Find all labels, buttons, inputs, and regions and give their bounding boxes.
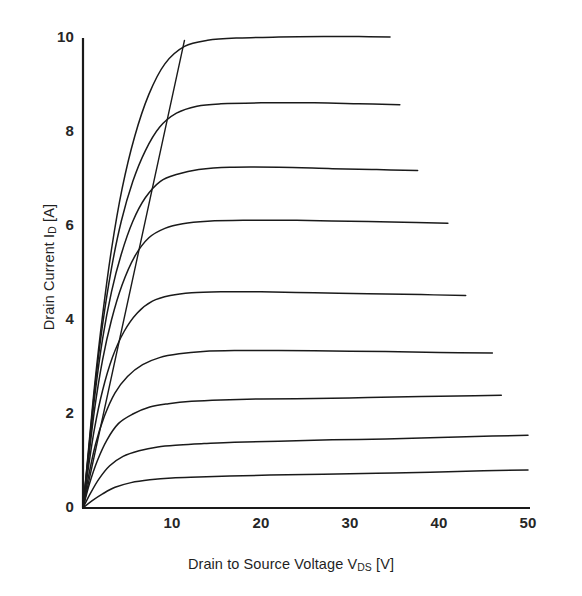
- y-axis-title-pre: Drain Current I: [41, 234, 57, 331]
- x-tick-label-10: 10: [152, 514, 192, 531]
- transistor-output-characteristics-figure: 10 8 6 4 2 0 10 20 30 40 50 Drain to Sou…: [0, 0, 582, 596]
- y-axis-title-post: [A]: [41, 204, 57, 226]
- x-tick-label-20: 20: [241, 514, 281, 531]
- characteristic-curves: [83, 37, 528, 508]
- curve-curve-1: [83, 37, 390, 508]
- x-axis-title: Drain to Source Voltage VDS [V]: [0, 556, 582, 573]
- y-axis-title-wrapper: Drain Current ID [A]: [40, 32, 58, 502]
- x-axis-title-pre: Drain to Source Voltage V: [188, 556, 357, 572]
- x-axis-title-post: [V]: [372, 556, 394, 572]
- x-tick-label-40: 40: [419, 514, 459, 531]
- curve-curve-7: [83, 395, 501, 508]
- curve-curve-2: [83, 103, 400, 508]
- chart-plot-area: [0, 0, 582, 596]
- curve-curve-9: [83, 470, 528, 508]
- x-tick-label-50: 50: [508, 514, 548, 531]
- curve-curve-6: [83, 350, 492, 508]
- x-tick-label-30: 30: [330, 514, 370, 531]
- y-axis-title-subscript: D: [47, 226, 58, 234]
- knee-locus-line: [83, 40, 184, 508]
- y-axis-title: Drain Current ID [A]: [41, 204, 57, 330]
- curve-curve-3: [83, 167, 418, 508]
- curve-curve-4: [83, 220, 448, 508]
- x-axis-title-subscript: DS: [357, 562, 372, 573]
- chart-annotations: [83, 40, 184, 508]
